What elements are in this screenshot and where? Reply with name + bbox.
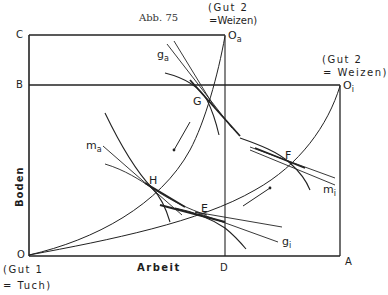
good-2-a-line-1: (Gut 2	[208, 3, 248, 13]
curve-g-i-sub: i	[289, 241, 291, 250]
arrow-down-left-head	[173, 149, 176, 152]
point-label-e: E	[201, 203, 208, 214]
isoquant-m-i-tangent-2	[250, 150, 335, 185]
isoquant-g-i-tangent-1	[195, 212, 282, 227]
isoquant-g-i-curve	[175, 208, 246, 249]
figure-caption: Abb. 75	[139, 13, 178, 23]
curve-label-g-a: ga	[157, 49, 169, 60]
curve-m-a-main: m	[86, 139, 97, 152]
arrow-up-right-shaft	[243, 188, 270, 206]
curve-m-i-sub: i	[334, 189, 336, 198]
curve-label-m-i: mi	[323, 184, 336, 195]
good-2-a-line-2: =Weizen)	[209, 16, 257, 26]
isoquant-m-i-curve	[240, 138, 310, 190]
corner-label-d: D	[220, 263, 228, 273]
origin-label-o-a: Oa	[228, 30, 242, 41]
isoquant-g-i-tangent-2	[195, 212, 278, 242]
arrow-up-right-head	[269, 187, 272, 190]
point-label-f: F	[285, 150, 291, 161]
good-1-line-2: = Tuch)	[3, 281, 52, 291]
good-2-i-line-1: (Gut 2	[322, 55, 362, 65]
good-1-line-1: (Gut 1	[3, 265, 43, 275]
curve-m-a-sub: a	[97, 145, 102, 154]
point-label-g: G	[193, 96, 202, 107]
corner-label-a: A	[345, 257, 352, 267]
isoquant-g-a-tangent-3	[190, 80, 240, 136]
origin-o-i-main: O	[343, 79, 352, 92]
contract-curve-i	[29, 86, 340, 255]
origin-label-o: O	[17, 250, 25, 260]
x-axis-label: Arbeit	[137, 263, 181, 273]
curve-g-a-main: g	[157, 48, 164, 61]
curve-label-m-a: ma	[86, 140, 102, 151]
origin-label-o-i: Oi	[343, 80, 354, 91]
origin-o-a-sub: a	[237, 35, 242, 44]
curve-label-g-i: gi	[282, 236, 291, 247]
corner-label-b: B	[16, 80, 23, 90]
curve-m-i-main: m	[323, 183, 334, 196]
curve-g-a-sub: a	[164, 54, 169, 63]
y-axis-label: Boden	[15, 166, 25, 207]
contract-curve-a	[29, 36, 225, 255]
point-label-h: H	[149, 175, 157, 186]
corner-label-c: C	[16, 30, 23, 40]
isoquant-m-i-tangent-1	[250, 147, 335, 178]
arrow-down-left-shaft	[174, 122, 190, 150]
origin-o-a-main: O	[228, 29, 237, 42]
origin-o-i-sub: i	[352, 85, 354, 94]
good-2-i-line-2: = Weizen)	[323, 68, 388, 78]
curve-g-i-main: g	[282, 235, 289, 248]
